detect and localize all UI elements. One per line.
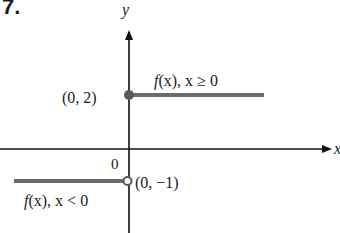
piecewise-graph: 7. x y 0 (0, 2) f(x), x ≥ 0 (0, −1) f(x)… (0, 0, 340, 233)
x-axis-label: x (333, 140, 340, 157)
point-label-open: (0, −1) (135, 174, 179, 192)
problem-number: 7. (2, 0, 20, 19)
piece-label-left: f(x), x < 0 (24, 192, 88, 210)
piece-label-left-rest: (x), x < 0 (28, 192, 88, 210)
y-axis-label: y (120, 1, 130, 19)
piece-label-right-rest: (x), x ≥ 0 (158, 72, 217, 90)
closed-point-icon (124, 90, 134, 100)
point-label-closed: (0, 2) (62, 89, 97, 107)
open-point-icon (124, 177, 132, 185)
origin-label: 0 (111, 156, 119, 172)
piece-label-right: f(x), x ≥ 0 (154, 72, 218, 90)
